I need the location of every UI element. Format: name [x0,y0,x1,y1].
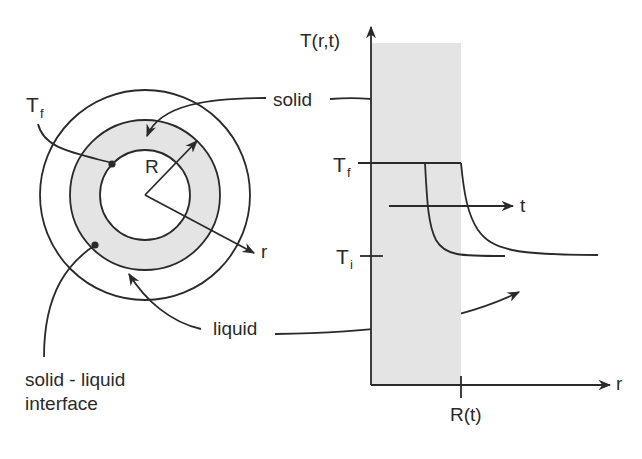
cross-section: R r T f solid - liquid interface [25,90,268,414]
tf-label-sub: f [40,106,44,121]
radius-label: R [145,156,159,177]
solid-region-shading [371,43,461,385]
solid-label: solid [273,89,312,110]
liquid-label: liquid [213,318,257,339]
tf-label-main: T [26,93,39,116]
interface-label-line1: solid - liquid [25,369,125,390]
inner-interface-dot [108,160,115,167]
interface-leader-line [44,245,95,357]
y-tick-tf-sub: f [347,165,351,180]
phase-change-diagram: R r T f solid - liquid interface solid l… [0,0,642,459]
y-axis-label: T(r,t) [300,30,340,51]
x-tick-rt-label: R(t) [450,404,482,425]
y-tick-tf-main: T [333,153,346,176]
time-arrow-label: t [520,195,526,216]
liquid-pointer-arrow-left [129,274,201,329]
x-axis-label: r [616,373,623,394]
y-tick-ti-main: T [336,245,349,268]
r-label: r [261,241,268,262]
profile-later-time [461,163,598,255]
interface-label-line2: interface [25,393,98,414]
temperature-plot: T(r,t) r T f T i R(t) t [300,27,623,425]
y-tick-ti-sub: i [350,257,353,272]
